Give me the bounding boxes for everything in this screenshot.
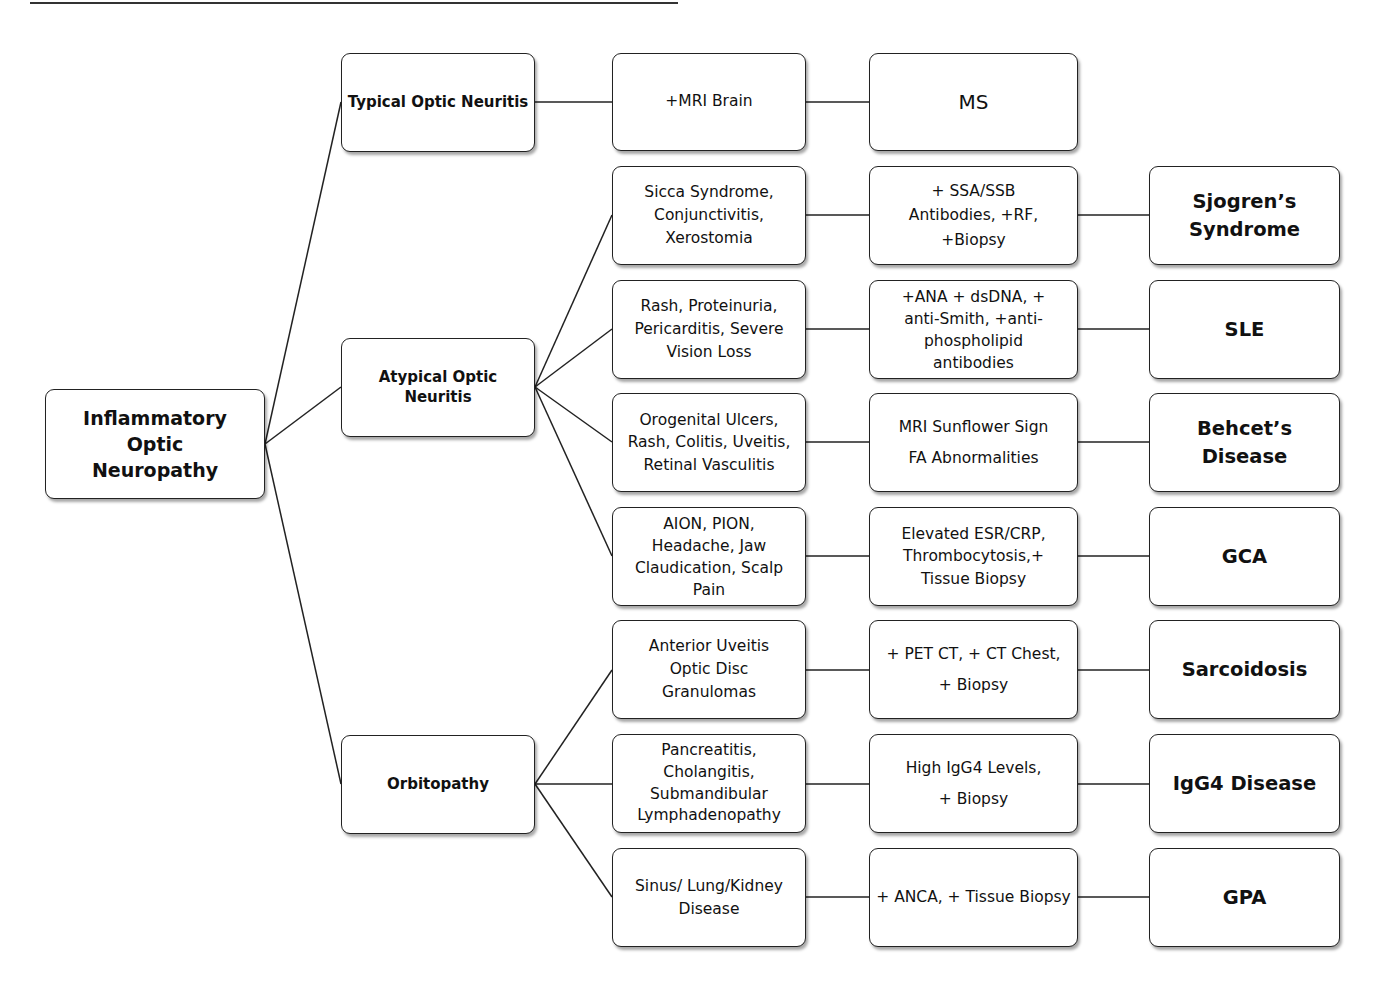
test-node-behcet: MRI Sunflower Sign FA Abnormalities	[869, 393, 1078, 492]
findings-node-sarcoidosis: Anterior Uveitis Optic Disc Granulomas	[612, 620, 806, 719]
findings-node-behcet: Orogenital Ulcers, Rash, Colitis, Uveiti…	[612, 393, 806, 492]
diagnosis-node-gpa: GPA	[1149, 848, 1340, 947]
findings-label: Sinus/ Lung/Kidney Disease	[635, 875, 783, 920]
findings-node-gca: AION, PION, Headache, Jaw Claudication, …	[612, 507, 806, 606]
root-node-inflammatory-optic-neuropathy: Inflammatory Optic Neuropathy	[45, 389, 265, 499]
diagnosis-label: IgG4 Disease	[1173, 770, 1316, 797]
diagnosis-node-ms: MS	[869, 53, 1078, 151]
diagnosis-label: MS	[959, 88, 989, 116]
findings-label: Sicca Syndrome, Conjunctivitis, Xerostom…	[644, 181, 773, 251]
test-node-gca: Elevated ESR/CRP, Thrombocytosis,+ Tissu…	[869, 507, 1078, 606]
findings-label: Anterior Uveitis Optic Disc Granulomas	[649, 635, 769, 705]
diagnosis-label: Sarcoidosis	[1182, 656, 1308, 683]
findings-node-igg4: Pancreatitis, Cholangitis, Submandibular…	[612, 734, 806, 833]
test-label: + SSA/SSB Antibodies, +RF, +Biopsy	[909, 179, 1038, 251]
test-label: + PET CT, + CT Chest, + Biopsy	[887, 639, 1061, 701]
diagnosis-node-sjogrens-syndrome: Sjogren’s Syndrome	[1149, 166, 1340, 265]
root-node-label: Inflammatory Optic Neuropathy	[52, 405, 258, 484]
diagnosis-node-behcets-disease: Behcet’s Disease	[1149, 393, 1340, 492]
diagnosis-node-sle: SLE	[1149, 280, 1340, 379]
test-label: +ANA + dsDNA, + anti-Smith, +anti- phosp…	[902, 286, 1046, 374]
diagnosis-node-gca: GCA	[1149, 507, 1340, 606]
diagnosis-label: SLE	[1225, 316, 1265, 343]
diagnosis-label: Sjogren’s Syndrome	[1189, 188, 1300, 243]
test-label: +MRI Brain	[665, 90, 752, 113]
test-node-sarcoidosis: + PET CT, + CT Chest, + Biopsy	[869, 620, 1078, 719]
test-node-sle: +ANA + dsDNA, + anti-Smith, +anti- phosp…	[869, 280, 1078, 379]
findings-label: Rash, Proteinuria, Pericarditis, Severe …	[634, 295, 783, 365]
findings-node-sjogren: Sicca Syndrome, Conjunctivitis, Xerostom…	[612, 166, 806, 265]
diagnosis-node-sarcoidosis: Sarcoidosis	[1149, 620, 1340, 719]
category-label: Typical Optic Neuritis	[348, 93, 529, 113]
test-node-sjogren: + SSA/SSB Antibodies, +RF, +Biopsy	[869, 166, 1078, 265]
diagnosis-label: GCA	[1222, 543, 1267, 570]
findings-label: AION, PION, Headache, Jaw Claudication, …	[635, 513, 783, 601]
test-node-igg4: High IgG4 Levels, + Biopsy	[869, 734, 1078, 833]
category-node-atypical-optic-neuritis: Atypical Optic Neuritis	[341, 338, 535, 437]
findings-label: Orogenital Ulcers, Rash, Colitis, Uveiti…	[628, 409, 791, 476]
test-node-mri-brain: +MRI Brain	[612, 53, 806, 151]
test-label: + ANCA, + Tissue Biopsy	[876, 886, 1071, 909]
diagnosis-label: Behcet’s Disease	[1156, 415, 1333, 470]
test-label: Elevated ESR/CRP, Thrombocytosis,+ Tissu…	[901, 523, 1045, 590]
findings-node-sle: Rash, Proteinuria, Pericarditis, Severe …	[612, 280, 806, 379]
findings-label: Pancreatitis, Cholangitis, Submandibular…	[637, 740, 781, 827]
category-label: Orbitopathy	[387, 775, 489, 795]
category-node-typical-optic-neuritis: Typical Optic Neuritis	[341, 53, 535, 152]
category-label: Atypical Optic Neuritis	[379, 368, 498, 407]
test-node-gpa: + ANCA, + Tissue Biopsy	[869, 848, 1078, 947]
diagnosis-label: GPA	[1223, 884, 1267, 911]
test-label: High IgG4 Levels, + Biopsy	[906, 753, 1042, 815]
test-label: MRI Sunflower Sign FA Abnormalities	[899, 412, 1049, 474]
diagnosis-node-igg4-disease: IgG4 Disease	[1149, 734, 1340, 833]
category-node-orbitopathy: Orbitopathy	[341, 735, 535, 834]
findings-node-gpa: Sinus/ Lung/Kidney Disease	[612, 848, 806, 947]
